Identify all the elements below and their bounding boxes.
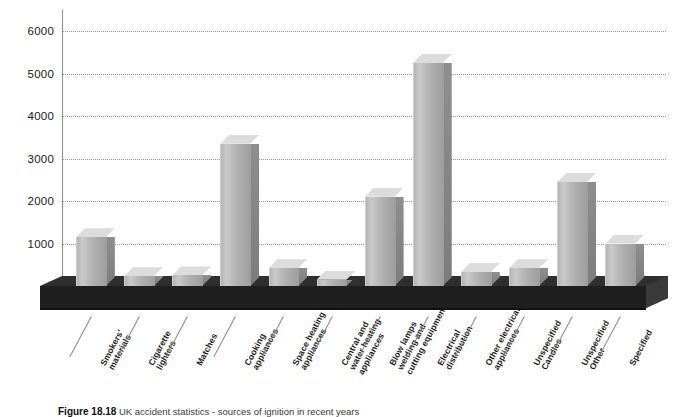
x-axis-category-label: Specified [628, 328, 655, 367]
label-leader-line [69, 316, 91, 357]
